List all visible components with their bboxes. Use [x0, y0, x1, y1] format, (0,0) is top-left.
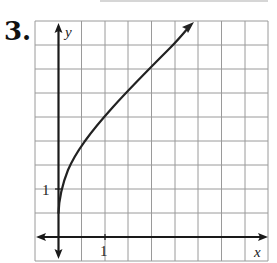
function-curve	[59, 28, 189, 213]
y-axis-label: y	[63, 24, 72, 40]
grid	[35, 21, 268, 261]
x-axis-label: x	[253, 244, 261, 260]
coordinate-graph: y x 1 1	[0, 0, 277, 263]
x-tick-label-1: 1	[100, 243, 108, 259]
y-tick-label-1: 1	[42, 182, 50, 198]
